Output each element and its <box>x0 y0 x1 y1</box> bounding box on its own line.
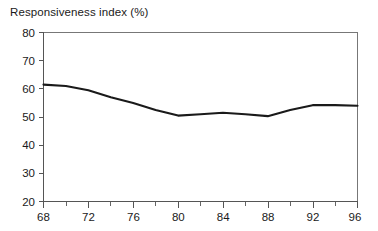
y-tick-label-20: 20 <box>22 196 35 208</box>
x-tick-label-80: 80 <box>172 211 185 223</box>
line-chart-plot: 80 70 60 50 40 30 20 68 7 <box>0 0 378 231</box>
chart-container: Responsiveness index (%) 80 70 60 50 40 … <box>0 0 378 231</box>
x-tick-label-68: 68 <box>37 211 50 223</box>
x-axis-ticks <box>44 202 358 208</box>
x-tick-label-72: 72 <box>82 211 95 223</box>
y-tick-label-40: 40 <box>22 139 35 151</box>
x-axis-tick-labels: 68 72 76 80 84 88 92 96 <box>37 211 361 223</box>
y-tick-label-50: 50 <box>22 111 35 123</box>
x-tick-label-76: 76 <box>127 211 140 223</box>
x-tick-label-96: 96 <box>349 211 362 223</box>
y-axis-tick-labels: 80 70 60 50 40 30 20 <box>22 27 35 208</box>
x-tick-label-92: 92 <box>307 211 320 223</box>
y-axis-ticks <box>39 33 44 202</box>
y-tick-label-80: 80 <box>22 27 35 39</box>
data-series-line <box>44 85 358 117</box>
y-tick-label-30: 30 <box>22 167 35 179</box>
x-tick-label-84: 84 <box>217 211 230 223</box>
y-tick-label-70: 70 <box>22 55 35 67</box>
plot-frame <box>44 33 358 202</box>
y-tick-label-60: 60 <box>22 83 35 95</box>
x-tick-label-88: 88 <box>262 211 275 223</box>
